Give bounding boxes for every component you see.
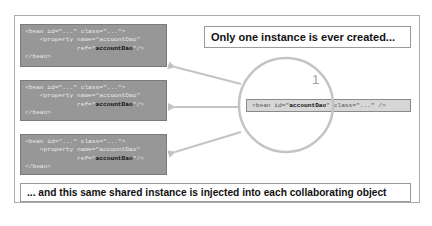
footer-callout: ... and this same shared instance is inj… — [20, 183, 411, 202]
instance-count-label: 1 — [312, 72, 319, 87]
